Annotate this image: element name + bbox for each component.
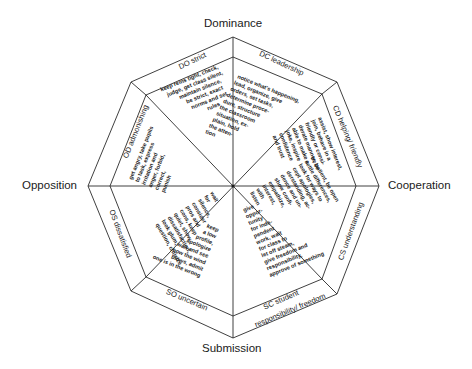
interpersonal-behaviour-octagon: DO strict DC leadership CD helping/ frie… [0, 0, 472, 369]
sector-label-cs: CS understanding [336, 201, 365, 261]
center-point [231, 184, 234, 187]
sector-label-os: OS dissatisfied [107, 208, 133, 259]
sector-label-so: SO uncertain [165, 287, 209, 312]
sector-label-dc: DC leadership [258, 49, 305, 78]
